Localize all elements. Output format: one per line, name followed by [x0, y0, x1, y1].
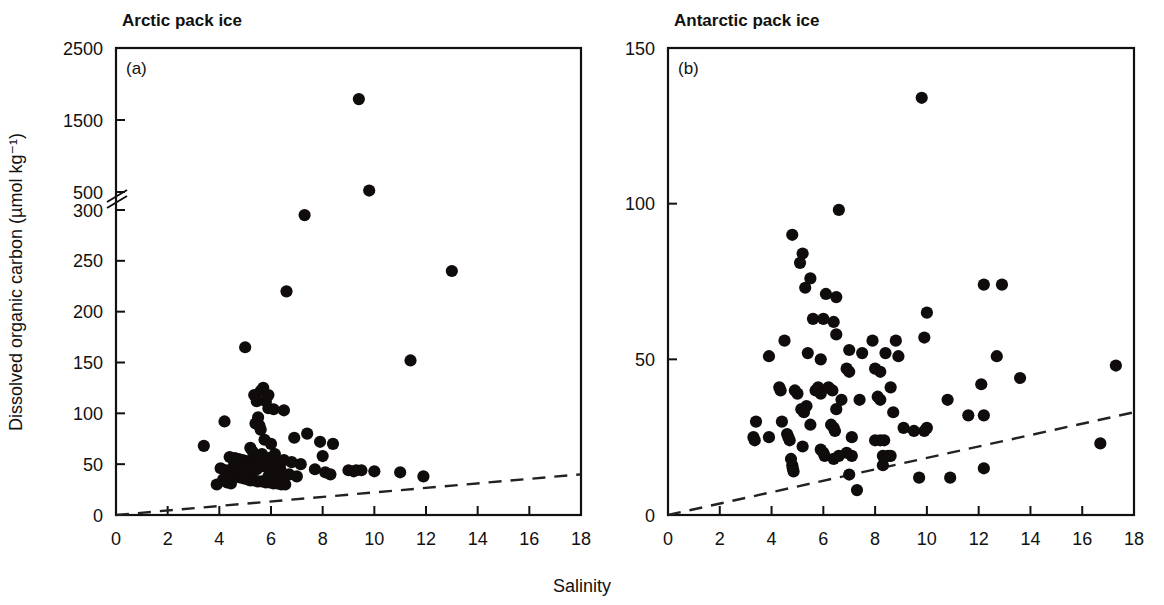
data-point: [828, 316, 840, 328]
data-point: [235, 464, 247, 476]
data-point: [797, 440, 809, 452]
panel-b-x-tick-label: 4: [767, 529, 777, 549]
panel-antarctic: Antarctic pack ice (b) 050100150 0246810…: [625, 11, 1144, 549]
panel-arctic: Arctic pack ice (a) 05010015020025030050…: [63, 11, 591, 549]
panel-a-x-tick-label: 10: [364, 529, 384, 549]
data-point: [794, 257, 806, 269]
data-point: [853, 394, 865, 406]
panel-a-y-tick-label: 250: [73, 251, 103, 271]
data-point: [846, 431, 858, 443]
data-point: [921, 307, 933, 319]
data-point: [198, 440, 210, 452]
panel-a-x-tick-label: 12: [416, 529, 436, 549]
data-point: [921, 422, 933, 434]
data-point: [843, 366, 855, 378]
data-point: [978, 279, 990, 291]
data-point: [778, 335, 790, 347]
panel-a-x-tick-label: 6: [266, 529, 276, 549]
data-point: [239, 341, 251, 353]
panel-b-x-tick-label: 14: [1020, 529, 1040, 549]
data-point: [897, 422, 909, 434]
data-point: [885, 450, 897, 462]
panel-a-y-tick-label: 2500: [63, 39, 103, 59]
data-point: [218, 415, 230, 427]
panel-a-letter: (a): [126, 59, 147, 78]
data-point: [879, 347, 891, 359]
data-point: [749, 434, 761, 446]
data-point: [978, 409, 990, 421]
data-point: [802, 347, 814, 359]
data-point: [267, 403, 279, 415]
data-point: [817, 313, 829, 325]
panel-a-frame: [116, 48, 581, 515]
panel-b-y-tick-label: 0: [645, 506, 655, 526]
data-point: [892, 350, 904, 362]
panel-b-x-tick-label: 8: [870, 529, 880, 549]
panel-b-y-ticks: [668, 48, 677, 515]
figure-svg: Salinity Dissolved organic carbon (µmol …: [0, 0, 1164, 605]
data-point: [750, 416, 762, 428]
panel-a-title: Arctic pack ice: [122, 11, 242, 30]
data-point: [815, 353, 827, 365]
data-point: [885, 381, 897, 393]
panel-b-x-tick-label: 12: [969, 529, 989, 549]
panel-b-x-tick-label: 18: [1124, 529, 1144, 549]
x-axis-title: Salinity: [553, 576, 611, 596]
data-point: [368, 465, 380, 477]
panel-b-y-tick-labels: 050100150: [625, 39, 655, 526]
data-point: [918, 331, 930, 343]
panel-a-y-tick-label: 50: [83, 455, 103, 475]
data-point: [348, 465, 360, 477]
data-point: [996, 279, 1008, 291]
data-point: [846, 450, 858, 462]
data-point: [215, 462, 227, 474]
data-point: [874, 366, 886, 378]
data-point: [295, 458, 307, 470]
data-point: [804, 419, 816, 431]
data-point: [363, 184, 375, 196]
data-point: [866, 335, 878, 347]
data-point: [843, 344, 855, 356]
data-point: [763, 350, 775, 362]
data-point: [978, 462, 990, 474]
data-point: [404, 354, 416, 366]
data-point: [309, 463, 321, 475]
data-point: [887, 406, 899, 418]
panel-a-y-tick-label: 100: [73, 404, 103, 424]
panel-a-y-tick-label: 0: [93, 506, 103, 526]
panel-a-y-tick-labels: 05010015020025030050015002500: [63, 39, 103, 526]
panel-b-letter: (b): [678, 59, 699, 78]
data-point: [975, 378, 987, 390]
data-point: [446, 265, 458, 277]
data-point: [791, 387, 803, 399]
panel-a-reference-line: [116, 474, 581, 515]
data-point: [874, 394, 886, 406]
data-point: [878, 434, 890, 446]
data-point: [833, 204, 845, 216]
panel-a-y-tick-label: 200: [73, 302, 103, 322]
data-point: [288, 432, 300, 444]
data-point: [877, 459, 889, 471]
data-point: [800, 400, 812, 412]
data-point: [829, 425, 841, 437]
data-point: [916, 92, 928, 104]
panel-b-x-ticks: [668, 506, 1134, 515]
data-point: [301, 428, 313, 440]
panel-a-y-tick-label: 150: [73, 353, 103, 373]
panel-a-x-tick-labels: 024681012141618: [111, 529, 591, 549]
panel-b-x-tick-label: 10: [917, 529, 937, 549]
data-point: [820, 288, 832, 300]
data-point: [776, 416, 788, 428]
panel-a-x-tick-label: 14: [468, 529, 488, 549]
data-point: [962, 409, 974, 421]
data-point: [394, 466, 406, 478]
data-point: [353, 93, 365, 105]
data-point: [252, 450, 264, 462]
panel-b-frame: [668, 48, 1134, 515]
data-point: [291, 470, 303, 482]
panel-b-x-tick-label: 6: [818, 529, 828, 549]
data-point: [251, 395, 263, 407]
panel-b-data-points: [747, 92, 1122, 496]
panel-a-x-tick-label: 2: [163, 529, 173, 549]
data-point: [298, 209, 310, 221]
